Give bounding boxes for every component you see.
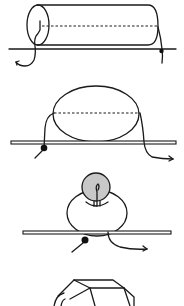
thread-2-right — [140, 113, 173, 159]
surface-bar-3 — [23, 231, 171, 234]
thread-1-right — [158, 27, 163, 63]
bead-end-ring — [54, 293, 64, 306]
needle-3 — [72, 243, 83, 252]
needle-2 — [35, 151, 42, 158]
panel-3-sphere-ring — [23, 173, 171, 252]
thread-1-left — [16, 21, 40, 66]
bead-hole-thread — [61, 299, 65, 306]
panel-1-cylinder — [9, 5, 176, 66]
cylinder-body — [37, 5, 158, 45]
knot-3 — [82, 237, 89, 244]
cylinder-end-cap — [27, 5, 49, 45]
thread-diagram — [0, 0, 184, 306]
oval-loop — [53, 86, 139, 142]
surface-bar-2 — [11, 141, 176, 144]
bead-facet-inner — [70, 288, 95, 306]
panel-2-oval — [11, 86, 176, 161]
knot-1 — [159, 49, 163, 53]
knot-2 — [41, 145, 48, 152]
thread-3-right — [108, 232, 147, 249]
panel-4-faceted-bead — [54, 280, 134, 306]
